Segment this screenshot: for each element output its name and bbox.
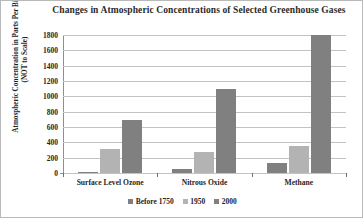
chart-legend: Before 175019502000	[1, 197, 363, 206]
bar	[122, 120, 142, 173]
legend-swatch-icon	[183, 199, 188, 204]
legend-item[interactable]: Before 1750	[128, 197, 173, 206]
y-tick-label: 1400	[24, 61, 58, 70]
x-axis-category-label: Nitrous Oxide	[182, 178, 228, 187]
bar	[311, 35, 331, 173]
x-tick-mark	[157, 173, 158, 177]
y-tick-label: 1000	[24, 92, 58, 101]
bar	[289, 146, 309, 173]
y-tick-label: 200	[24, 153, 58, 162]
y-tick-label: 600	[24, 123, 58, 132]
bar	[267, 163, 287, 173]
bars-layer	[63, 35, 346, 173]
y-tick-label: 400	[24, 138, 58, 147]
x-tick-mark	[63, 173, 64, 177]
legend-item[interactable]: 1950	[183, 197, 206, 206]
bar	[194, 152, 214, 173]
legend-swatch-icon	[214, 199, 219, 204]
x-tick-mark	[252, 173, 253, 177]
y-tick-label: 1600	[24, 46, 58, 55]
plot-area: 020040060080010001200140016001800	[63, 35, 346, 173]
y-tick-label: 800	[24, 107, 58, 116]
y-tick-label: 1200	[24, 77, 58, 86]
chart-container: Changes in Atmospheric Concentrations of…	[0, 0, 363, 218]
x-axis-category-label: Methane	[284, 178, 313, 187]
y-tick-label: 0	[24, 169, 58, 178]
bar-group	[157, 35, 251, 173]
legend-label: 2000	[222, 197, 237, 206]
legend-swatch-icon	[128, 199, 133, 204]
bar	[100, 149, 120, 173]
x-axis-area: Surface Level OzoneNitrous OxideMethane	[63, 173, 346, 195]
x-axis-category-label: Surface Level Ozone	[77, 178, 144, 187]
bar-group	[63, 35, 157, 173]
legend-label: 1950	[190, 197, 205, 206]
bar-group	[252, 35, 346, 173]
legend-label: Before 1750	[136, 197, 174, 206]
legend-item[interactable]: 2000	[214, 197, 237, 206]
chart-title: Changes in Atmospheric Concentrations of…	[49, 5, 349, 17]
x-tick-mark	[346, 173, 347, 177]
bar	[216, 89, 236, 173]
y-tick-label: 1800	[24, 31, 58, 40]
